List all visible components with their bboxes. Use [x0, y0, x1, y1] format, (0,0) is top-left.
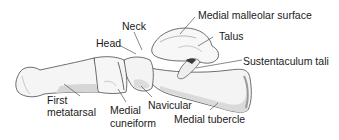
- leader-head: [119, 45, 136, 54]
- label-medial-tubercle: Medial tubercle: [174, 113, 245, 125]
- label-talus: Talus: [219, 30, 244, 42]
- foot-bones-diagram: Neck Medial malleolar surface Head Talus…: [0, 0, 339, 140]
- foot-bones-illustration: [0, 0, 339, 140]
- label-medial-cuneiform-line2: cuneiform: [110, 117, 156, 129]
- label-head: Head: [96, 37, 121, 49]
- first-metatarsal-bone: [16, 58, 98, 97]
- label-medial-malleolar-surface: Medial malleolar surface: [198, 9, 312, 21]
- label-navicular: Navicular: [148, 99, 192, 111]
- label-neck: Neck: [122, 20, 146, 32]
- medial-cuneiform-bone: [94, 57, 127, 94]
- navicular-bone: [124, 57, 153, 91]
- label-sustentaculum-tali: Sustentaculum tali: [243, 55, 329, 67]
- label-first-metatarsal-line2: metatarsal: [47, 106, 96, 118]
- leader-neck: [134, 32, 142, 50]
- label-medial-cuneiform-line1: Medial: [110, 104, 141, 116]
- talus: [152, 28, 219, 63]
- label-first-metatarsal-line1: First: [47, 94, 67, 106]
